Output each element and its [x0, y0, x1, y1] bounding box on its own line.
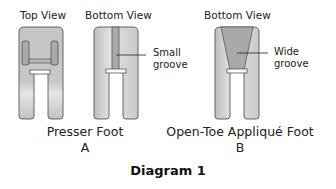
wide-groove-callout-line2: groove — [274, 58, 309, 69]
small-groove-callout-line1: Small — [153, 47, 181, 58]
bottom-view-label-b: Bottom View — [204, 9, 271, 21]
bottom-view-label-a: Bottom View — [85, 9, 152, 21]
open-toe-foot-letter: B — [160, 140, 320, 155]
presser-foot-bottom-view — [94, 27, 146, 119]
small-groove-callout-line2: groove — [153, 59, 188, 70]
wide-groove-callout-line1: Wide — [274, 46, 299, 57]
presser-foot-caption: Presser Foot — [30, 124, 140, 139]
open-toe-foot-bottom-view — [215, 27, 268, 119]
open-toe-foot-caption: Open-Toe Appliqué Foot — [160, 124, 320, 139]
presser-foot-top-view — [19, 27, 63, 119]
presser-foot-letter: A — [30, 140, 140, 155]
top-view-label: Top View — [20, 9, 66, 21]
diagram-title: Diagram 1 — [0, 163, 336, 178]
diagram-canvas — [0, 0, 336, 189]
